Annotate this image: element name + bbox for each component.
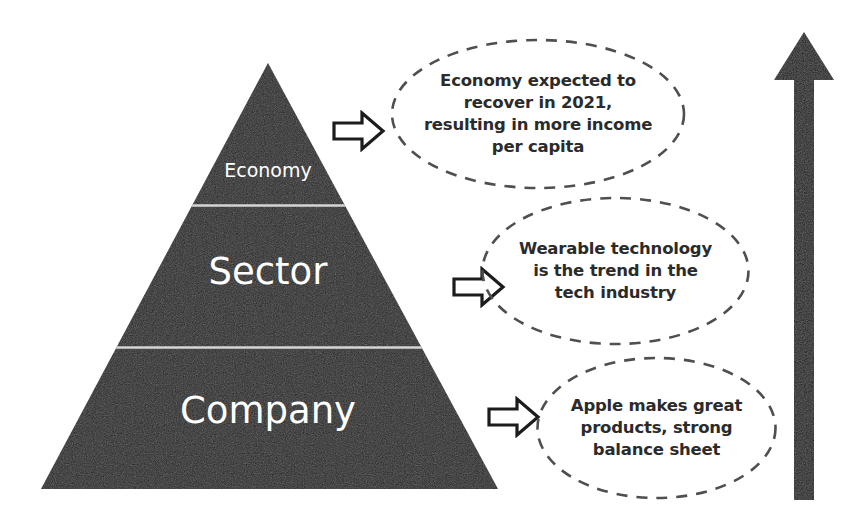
- callout-economy-text: Economy expected to recover in 2021, res…: [388, 36, 688, 192]
- callout-company-text: Apple makes great products, strong balan…: [534, 354, 779, 502]
- up-arrow-icon: [770, 28, 838, 504]
- right-block-arrow-icon-company: [487, 396, 541, 438]
- pyramid-tier-label-company: Company: [0, 392, 536, 429]
- callout-company: Apple makes great products, strong balan…: [534, 354, 779, 502]
- right-block-arrow-icon-economy: [332, 110, 386, 152]
- callout-economy: Economy expected to recover in 2021, res…: [388, 36, 688, 192]
- diagram-canvas: Economy Sector Company Economy expected …: [0, 0, 854, 528]
- callout-sector-text: Wearable technology is the trend in the …: [479, 194, 752, 348]
- callout-sector: Wearable technology is the trend in the …: [479, 194, 752, 348]
